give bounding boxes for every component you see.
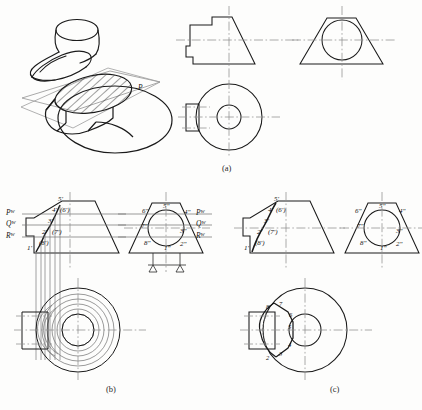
- point-label-c-front-6: (6'): [276, 207, 286, 214]
- point-label-b-side-2: 2": [180, 241, 186, 248]
- point-label-c-top-8: 8: [266, 304, 269, 311]
- point-label-b-front-7: (7'): [52, 229, 62, 236]
- trace-sub-w: W: [11, 232, 15, 237]
- point-label-c-top-6: 6: [289, 312, 292, 319]
- pictorial-base-arc: [96, 122, 133, 137]
- panel-a-top-centerlines: [178, 80, 280, 158]
- trace-label-pw-right: PW: [196, 209, 201, 217]
- point-label-c-side-2: 2": [396, 241, 402, 248]
- point-label-c-front-4: 4': [268, 207, 273, 214]
- trace-label-pw-left: PW: [6, 209, 11, 217]
- caption-a: (a): [222, 163, 231, 173]
- panel-a-front-centerlines: [176, 6, 300, 80]
- trace-sub-w: W: [201, 220, 205, 225]
- point-label-b-side-1: 1": [164, 245, 170, 252]
- pictorial-drawing: [30, 20, 99, 82]
- point-label-c-side-3: 3": [396, 228, 402, 235]
- caption-b: (b): [106, 384, 116, 394]
- point-label-b-side-7: 7": [141, 223, 147, 230]
- panel-b-side-projection-arrows: [148, 253, 186, 272]
- point-label-b-front-8: (8'): [39, 240, 49, 247]
- figure-svg: [0, 0, 422, 410]
- point-label-c-top-2: 2: [266, 355, 269, 362]
- point-label-c-side-6: 6": [355, 208, 361, 215]
- point-label-b-side-3: 3": [180, 228, 186, 235]
- trace-label-rw-right: RW: [196, 232, 201, 240]
- point-label-c-side-4: 4": [399, 208, 405, 215]
- point-label-b-front-2: 2': [42, 229, 47, 236]
- point-label-c-side-1: 1": [380, 245, 386, 252]
- caption-c: (c): [330, 384, 339, 394]
- point-label-c-front-5: 5': [274, 196, 279, 203]
- point-label-b-front-6: (6'): [60, 207, 70, 214]
- point-label-b-side-4: 4": [184, 209, 190, 216]
- trace-sub-w: W: [11, 209, 15, 214]
- trace-label-qw-left: QW: [6, 220, 11, 228]
- point-label-c-front-2: 2': [257, 229, 262, 236]
- section-hatched-face: [55, 74, 132, 113]
- point-label-b-side-6: 6": [142, 208, 148, 215]
- trace-label-qw-right: QW: [196, 220, 201, 228]
- trace-sub-w: W: [201, 232, 205, 237]
- point-label-b-front-3: 3': [48, 218, 53, 225]
- point-label-b-front-1: 1': [27, 245, 32, 252]
- point-label-b-side-5: 5": [163, 203, 169, 210]
- point-label-c-side-8: 8": [360, 240, 366, 247]
- drawing-sheet: P (a) (b) (c) PW QW RW PW QW RW 5' 4' (6…: [0, 0, 422, 410]
- panel-a-side-centerlines: [292, 6, 395, 80]
- point-label-c-front-7: (7'): [268, 229, 278, 236]
- panel-b-top-hub: [22, 312, 94, 349]
- point-label-c-side-7: 7": [357, 223, 363, 230]
- point-label-c-top-3: 3: [279, 351, 282, 358]
- panel-a-side-view: [300, 18, 383, 64]
- panel-c-front-centerlines: [234, 192, 345, 268]
- trace-sub-w: W: [201, 209, 205, 214]
- panel-b-top-centerlines: [14, 278, 146, 380]
- point-label-c-top-4: 4: [288, 342, 291, 349]
- point-label-c-front-8: (8'): [255, 240, 265, 247]
- point-label-c-side-5: 5": [379, 203, 385, 210]
- point-label-c-top-5: 5: [288, 324, 291, 331]
- point-label-b-side-8: 8": [144, 240, 150, 247]
- plane-p-label: P: [138, 84, 143, 92]
- point-label-b-front-4: 4': [52, 207, 57, 214]
- point-label-b-front-5: 5': [58, 196, 63, 203]
- point-label-c-front-3: 3': [264, 218, 269, 225]
- trace-sub-w: W: [11, 220, 15, 225]
- panel-a-front-view: [186, 17, 255, 64]
- point-label-c-top-7: 7: [279, 301, 282, 308]
- trace-label-rw-left: RW: [6, 232, 11, 240]
- point-label-c-front-1: 1': [244, 245, 249, 252]
